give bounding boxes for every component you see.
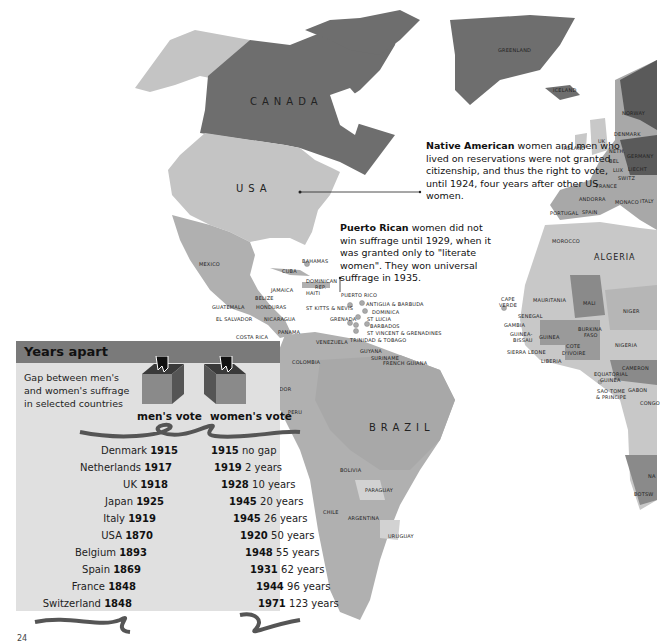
country-label: CHILE	[323, 509, 339, 515]
women-vote-cell: 1944 96 years	[256, 581, 330, 592]
men-vote-cell: UK 1918	[123, 479, 168, 490]
label-algeria: ALGERIA	[594, 253, 636, 262]
women-vote-cell: 1919 2 years	[214, 462, 282, 473]
women-vote-cell: 1971 123 years	[258, 598, 339, 609]
country-label: MAURITANIA	[533, 297, 566, 303]
country-label: GUATEMALA	[212, 304, 245, 310]
men-vote-header: men's vote	[137, 410, 202, 422]
men-vote-cell: Denmark 1915	[101, 445, 178, 456]
country-label: GUINEA	[600, 377, 621, 383]
country-label: URUGUAY	[388, 533, 414, 539]
men-vote-cell: USA 1870	[101, 530, 153, 541]
country-label: SPAIN	[582, 209, 598, 215]
country-label: SIERRA LEONE	[507, 349, 546, 355]
country-label: DOMINICA	[372, 309, 399, 315]
women-ballot-box-icon	[200, 356, 250, 406]
country-label: SENEGAL	[518, 313, 543, 319]
women-vote-cell: 1948 55 years	[245, 547, 319, 558]
women-vote-cell: 1915 no gap	[211, 445, 276, 456]
country-label: BELIZE	[255, 295, 274, 301]
country-label: ST VINCENT & GRENADINES	[367, 330, 442, 336]
country-label: PARAGUAY	[365, 487, 393, 493]
country-label: ARGENTINA	[348, 515, 379, 521]
country-label: BAHAMAS	[302, 258, 328, 264]
country-label: COSTA RICA	[236, 334, 268, 340]
country-label: D'IVOIRE	[562, 350, 586, 356]
country-label: GRENADA	[330, 316, 356, 322]
country-label: TRINIDAD & TOBAGO	[350, 337, 406, 343]
men-ballot-box-icon	[138, 356, 188, 406]
country-label: HONDURAS	[256, 304, 286, 310]
country-label: GUINEA	[539, 334, 560, 340]
note-native-american: Native American women and men who lived …	[426, 140, 631, 203]
label-usa: USA	[236, 183, 272, 194]
subtitle-line: Gap between men's	[24, 371, 129, 384]
country-label: EL SALVADOR	[216, 316, 252, 322]
country-label: GABON	[628, 387, 647, 393]
country-label: NA	[648, 473, 656, 479]
men-vote-cell: Japan 1925	[105, 496, 164, 507]
country-label: COLOMBIA	[292, 359, 320, 365]
panel-subtitle: Gap between men's and women's suffrage i…	[24, 371, 129, 410]
subtitle-line: and women's suffrage	[24, 384, 129, 397]
men-vote-cell: Belgium 1893	[75, 547, 147, 558]
country-label: NIGERIA	[615, 342, 637, 348]
women-vote-cell: 1945 26 years	[233, 513, 307, 524]
label-iceland: ICELAND	[553, 87, 576, 93]
country-label: BARBADOS	[370, 323, 400, 329]
country-label: HAITI	[306, 290, 320, 296]
country-label: ANTIGUA & BARBUDA	[366, 301, 424, 307]
country-label: CUBA	[282, 268, 297, 274]
men-vote-cell: Switzerland 1848	[43, 598, 132, 609]
country-label: CONGO	[640, 400, 660, 406]
country-label: GUYANA	[360, 348, 382, 354]
country-label: ITALY	[640, 198, 654, 204]
women-vote-header: women's vote	[210, 410, 292, 422]
subtitle-line: in selected countries	[24, 397, 129, 410]
label-brazil: BRAZIL	[369, 422, 435, 433]
country-label: BOTSW	[634, 491, 653, 497]
men-vote-cell: Italy 1919	[103, 513, 156, 524]
country-label: VERDE	[499, 302, 517, 308]
women-vote-cell: 1945 20 years	[229, 496, 303, 507]
men-vote-cell: Spain 1869	[82, 564, 141, 575]
label-greenland: GREENLAND	[498, 47, 531, 53]
country-label: COTE	[566, 343, 580, 349]
label-mexico: MEXICO	[199, 261, 220, 267]
label-canada: CANADA	[250, 96, 323, 107]
women-vote-cell: 1931 62 years	[250, 564, 324, 575]
country-label: ST KITTS & NEVIS	[306, 305, 353, 311]
men-vote-cell: Netherlands 1917	[80, 462, 172, 473]
country-label: NIGER	[623, 308, 640, 314]
note-native-american-bold: Native American	[426, 140, 515, 151]
panel-title: Years apart	[24, 344, 108, 359]
country-label: DENMARK	[614, 131, 641, 137]
country-label: BOLIVIA	[340, 467, 361, 473]
country-label: VENEZUELA	[316, 339, 348, 345]
country-label: MALI	[583, 300, 596, 306]
country-label: BISSAU	[513, 337, 533, 343]
country-label: PUERTO RICO	[341, 292, 377, 298]
country-label: ST LUCIA	[367, 316, 391, 322]
country-label: NICARAGUA	[264, 316, 296, 322]
country-label: LIBERIA	[541, 358, 562, 364]
country-label: JAMAICA	[271, 287, 293, 293]
country-label: GAMBIA	[504, 322, 525, 328]
women-vote-cell: 1920 50 years	[240, 530, 314, 541]
country-label: FRENCH GUIANA	[383, 360, 427, 366]
men-vote-cell: France 1848	[72, 581, 136, 592]
country-label: NORWAY	[622, 110, 645, 116]
country-label: FASO	[584, 332, 598, 338]
country-label: MOROCCO	[552, 238, 580, 244]
women-vote-cell: 1928 10 years	[221, 479, 295, 490]
country-label: & PRINCIPE	[596, 394, 626, 400]
note-puerto-rico: Puerto Rican women did not win suffrage …	[340, 222, 495, 285]
country-label: PORTUGAL	[550, 210, 578, 216]
note-puerto-rico-bold: Puerto Rican	[340, 222, 409, 233]
page-number: 24	[17, 634, 27, 642]
country-label: PANAMA	[278, 329, 300, 335]
